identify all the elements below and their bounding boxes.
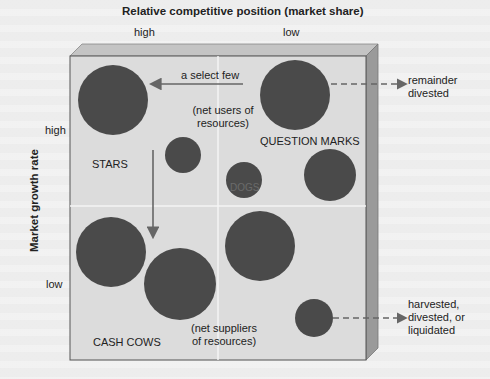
net-suppliers-line1: (net suppliers (186, 322, 262, 335)
y-axis-label-low: low (46, 278, 63, 291)
circle-dog-large (225, 211, 295, 281)
net-users-line2: resources) (188, 117, 258, 130)
harvested-line1: harvested, (408, 298, 465, 311)
net-suppliers-line2: of resources) (186, 335, 262, 348)
net-users-label: (net users of resources) (188, 104, 258, 130)
circle-question-mark-large (260, 60, 330, 130)
circle-cash-cow-right (144, 248, 216, 320)
harvested-line3: liquidated (408, 324, 465, 337)
net-suppliers-label: (net suppliers of resources) (186, 322, 262, 348)
circle-dog-bottom (295, 299, 333, 337)
quadrant-label-cash-cows: CASH COWS (93, 336, 161, 349)
net-users-line1: (net users of (188, 104, 258, 117)
harvested-line2: divested, or (408, 311, 465, 324)
x-axis-label-low: low (283, 26, 300, 39)
remainder-line2: divested (408, 87, 458, 100)
y-axis-title: Market growth rate (28, 152, 40, 252)
box-top-face (70, 44, 378, 56)
x-axis-title: Relative competitive position (market sh… (122, 5, 364, 18)
y-axis-label-high: high (45, 124, 66, 137)
quadrant-label-dogs: DOGS (230, 181, 259, 194)
select-few-label: a select few (181, 69, 239, 82)
circle-star-large (78, 65, 148, 135)
circle-question-mark-medium (304, 149, 356, 201)
harvested-label: harvested, divested, or liquidated (408, 298, 465, 337)
quadrant-label-question-marks: QUESTION MARKS (260, 135, 360, 148)
x-axis-label-high: high (134, 26, 155, 39)
circle-cash-cow-left (76, 217, 146, 287)
circle-star-small (165, 137, 201, 173)
quadrant-label-stars: STARS (92, 158, 128, 171)
box-side-face (366, 44, 378, 360)
remainder-line1: remainder (408, 74, 458, 87)
remainder-divested-label: remainder divested (408, 74, 458, 100)
